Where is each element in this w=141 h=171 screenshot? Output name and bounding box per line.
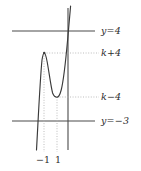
label-y-equals-minus-3: y=−3: [101, 116, 129, 126]
local-maximum-point: [43, 52, 45, 54]
label-k-plus-4: k+4: [101, 48, 121, 58]
label-y-equals-4: y=4: [101, 26, 121, 36]
label-k-minus-4: k−4: [101, 92, 121, 102]
figure-container: y=4 k+4 k−4 y=−3 −1 1: [0, 0, 141, 171]
cubic-curve: [37, 6, 71, 150]
x-tick-label-one: 1: [55, 155, 61, 165]
x-tick-label-minus-1: −1: [36, 155, 50, 165]
